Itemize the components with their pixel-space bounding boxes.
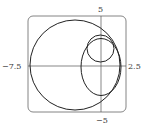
x-min-label: −7.5 — [2, 62, 21, 71]
x-max-label: 2.5 — [128, 62, 141, 71]
small-circle-curve — [87, 35, 114, 62]
y-max-label: 5 — [98, 5, 103, 14]
plot-frame — [28, 16, 126, 112]
large-circle-curve — [30, 20, 120, 110]
y-min-label: −5 — [96, 116, 108, 125]
polar-plot: −7.5 2.5 5 −5 — [0, 0, 142, 126]
